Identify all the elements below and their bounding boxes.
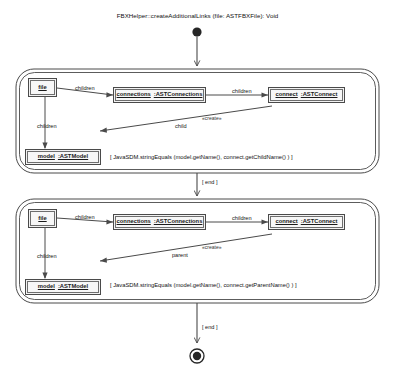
object-node-connections-1[interactable]: connections:ASTConnections <box>113 87 206 103</box>
final-node <box>190 349 204 363</box>
object-node-connections-1-label: connections:ASTConnections <box>117 92 203 98</box>
object-node-file-1[interactable]: file <box>28 78 57 97</box>
object-node-model-2-body: model:ASTModel <box>27 281 99 293</box>
link-label-create-child-1: child <box>175 124 187 130</box>
object-node-connect-2-label: connect:ASTConnect <box>276 219 338 225</box>
object-node-model-2[interactable]: model:ASTModel <box>25 279 101 295</box>
activity-guard-2: [ JavaSDM.stringEquals (model.getName(),… <box>110 283 297 289</box>
object-node-file-1-label: file <box>38 85 46 91</box>
link-stereotype-create-child-1: «create» <box>202 116 221 121</box>
transition-label-2: [ end ] <box>202 325 218 331</box>
object-node-connections-1-body: connections:ASTConnections <box>115 89 204 101</box>
object-node-file-1-body: file <box>30 80 55 95</box>
object-node-connections-2[interactable]: connections:ASTConnections <box>113 214 206 230</box>
link-label-connections-connect-1: children <box>232 89 252 95</box>
object-node-connect-1-label: connect:ASTConnect <box>276 92 338 98</box>
link-label-file-model-2: children <box>37 254 57 260</box>
link-label-create-parent-2: parent <box>172 253 188 259</box>
object-node-file-2-label: file <box>38 216 46 222</box>
activity-guard-1: [ JavaSDM.stringEquals (model.getName(),… <box>110 155 293 161</box>
link-label-file-connections-1: children <box>75 86 95 92</box>
object-node-model-1-body: model:ASTModel <box>27 151 99 163</box>
object-node-model-1[interactable]: model:ASTModel <box>25 149 101 165</box>
diagram-canvas <box>0 0 395 376</box>
object-node-connections-2-body: connections:ASTConnections <box>115 216 204 228</box>
link-label-file-connections-2: children <box>75 215 95 221</box>
object-node-file-2-body: file <box>30 211 55 226</box>
object-node-file-2[interactable]: file <box>28 209 57 228</box>
link-label-connections-connect-2: children <box>232 216 252 222</box>
link-stereotype-create-parent-2: «create» <box>202 245 221 250</box>
object-node-connect-1[interactable]: connect:ASTConnect <box>268 87 345 103</box>
transition-label-1: [ end ] <box>202 180 218 186</box>
object-node-model-2-label: model:ASTModel <box>38 284 88 290</box>
object-node-connect-2-body: connect:ASTConnect <box>270 216 343 228</box>
object-node-model-1-label: model:ASTModel <box>38 154 88 160</box>
object-node-connections-2-label: connections:ASTConnections <box>117 219 203 225</box>
object-node-connect-1-body: connect:ASTConnect <box>270 89 343 101</box>
link-label-file-model-1: children <box>37 124 57 130</box>
object-node-connect-2[interactable]: connect:ASTConnect <box>268 214 345 230</box>
initial-node <box>192 27 201 36</box>
